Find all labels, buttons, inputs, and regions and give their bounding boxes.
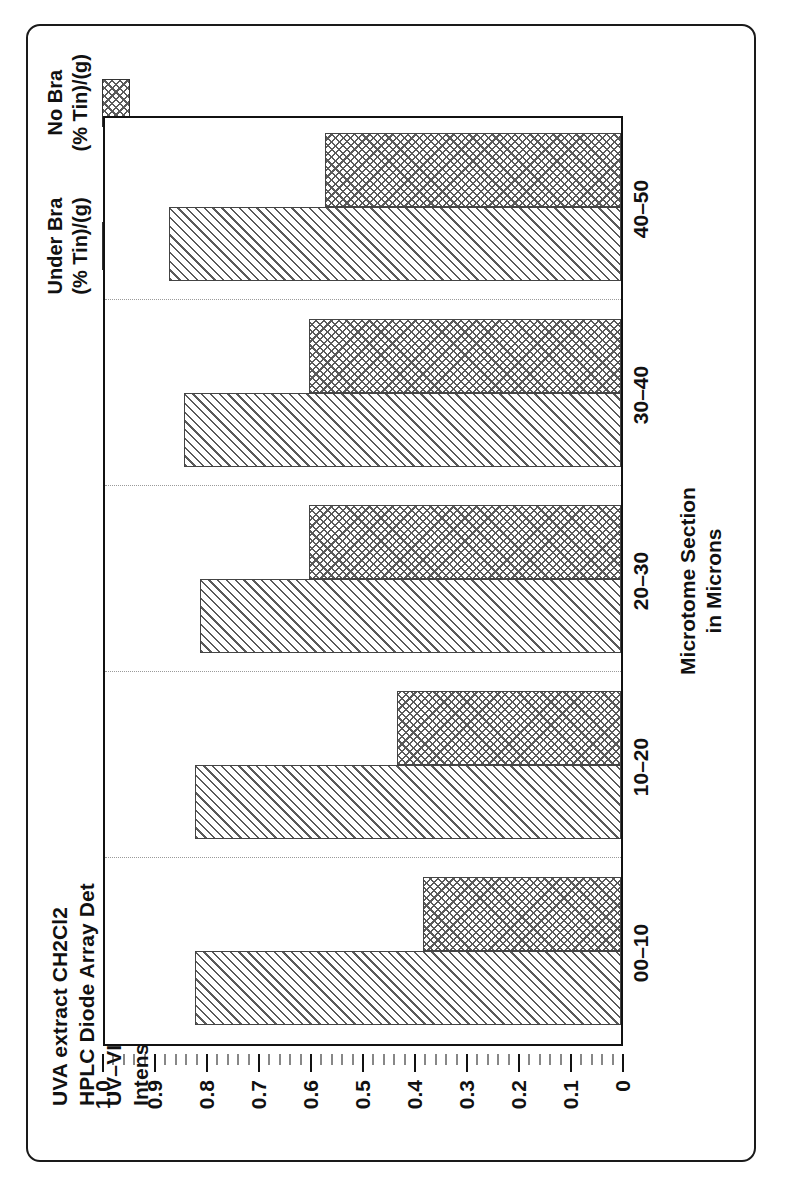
bar-00-10-under-bra [195,951,621,1025]
bar-10-20-no-bra [397,691,621,765]
value-tick-label: 0.9 [143,1080,167,1109]
value-axis: 1.00.90.80.70.60.50.40.30.20.10 [103,1046,623,1138]
value-tick-major [258,1054,260,1072]
value-tick-minor [560,1054,561,1065]
value-tick-major [466,1054,468,1072]
bar-30-40-no-bra [309,319,621,393]
value-tick-minor [508,1054,509,1065]
bar-40-50-under-bra [169,207,621,281]
value-tick-minor [227,1054,228,1065]
value-tick-minor [196,1054,197,1065]
value-tick-minor [591,1054,592,1065]
value-tick-label: 0.4 [403,1080,427,1109]
value-tick-minor [404,1054,405,1065]
value-tick-minor [175,1054,176,1065]
category-tick-label: 30–40 [629,366,653,424]
bar-00-10-no-bra [423,877,621,951]
value-tick-minor [487,1054,488,1065]
value-tick-minor [498,1054,499,1065]
bar-chart-figure: UVA extract CH2Cl2 HPLC Diode Array Det … [41,48,741,1138]
value-tick-label: 0.8 [195,1080,219,1109]
value-tick-minor [342,1054,343,1065]
value-tick-label: 0.1 [559,1080,583,1109]
rotated-figure-host: UVA extract CH2Cl2 HPLC Diode Array Det … [41,48,741,1138]
value-tick-major [518,1054,520,1072]
value-tick-label: 1.0 [91,1080,115,1109]
category-axis: 00–1010–2020–3030–4040–50 [629,116,669,1046]
value-tick-minor [134,1054,135,1065]
plot-area [103,116,623,1046]
value-tick-minor [425,1054,426,1065]
grid-line [105,299,621,300]
value-tick-minor [300,1054,301,1065]
bar-20-30-no-bra [309,505,621,579]
value-tick-minor [269,1054,270,1065]
plot-wrapper [103,116,623,1046]
bar-30-40-under-bra [184,393,621,467]
value-tick-label: 0.7 [247,1080,271,1109]
bar-40-50-no-bra [325,133,621,207]
category-tick-label: 20–30 [629,552,653,610]
value-tick-minor [373,1054,374,1065]
value-tick-minor [352,1054,353,1065]
value-tick-minor [602,1054,603,1065]
value-tick-minor [217,1054,218,1065]
legend-label-under-bra: Under Bra (% Tin)/(g) [43,197,93,294]
value-tick-label: 0.5 [351,1080,375,1109]
category-tick-label: 00–10 [629,924,653,982]
category-tick-label: 10–20 [629,738,653,796]
value-tick-label: 0.3 [455,1080,479,1109]
value-tick-major [154,1054,156,1072]
value-tick-minor [539,1054,540,1065]
value-tick-label: 0.6 [299,1080,323,1109]
value-tick-minor [186,1054,187,1065]
value-tick-minor [248,1054,249,1065]
category-tick-label: 40–50 [629,180,653,238]
value-tick-minor [383,1054,384,1065]
value-tick-major [414,1054,416,1072]
value-tick-minor [435,1054,436,1065]
value-tick-major [362,1054,364,1072]
value-tick-minor [144,1054,145,1065]
value-tick-minor [238,1054,239,1065]
value-tick-minor [456,1054,457,1065]
value-tick-major [570,1054,572,1072]
value-tick-major [102,1054,104,1072]
legend-label-no-bra: No Bra (% Tin)/(g) [43,54,93,151]
bar-10-20-under-bra [195,765,621,839]
bar-20-30-under-bra [200,579,621,653]
grid-line [105,857,621,858]
value-tick-major [206,1054,208,1072]
value-tick-minor [612,1054,613,1065]
value-tick-minor [331,1054,332,1065]
value-tick-minor [529,1054,530,1065]
page-frame: UVA extract CH2Cl2 HPLC Diode Array Det … [26,24,756,1162]
category-axis-title-line-1: Microtome Section [675,116,701,1046]
grid-line [105,671,621,672]
value-tick-minor [321,1054,322,1065]
value-tick-minor [165,1054,166,1065]
value-tick-minor [290,1054,291,1065]
category-axis-title: Microtome Section in Microns [675,116,728,1046]
value-tick-minor [446,1054,447,1065]
chart-title-line-1: UVA extract CH2Cl2 [47,883,74,1106]
value-tick-minor [279,1054,280,1065]
value-tick-label: 0 [611,1080,635,1092]
category-axis-title-line-2: in Microns [701,116,727,1046]
value-tick-label: 0.2 [507,1080,531,1109]
value-tick-minor [581,1054,582,1065]
value-tick-minor [113,1054,114,1065]
value-tick-minor [394,1054,395,1065]
chart-title-line-2: HPLC Diode Array Det [74,883,101,1106]
value-tick-minor [477,1054,478,1065]
grid-line [105,485,621,486]
value-tick-minor [550,1054,551,1065]
value-tick-minor [123,1054,124,1065]
value-tick-major [310,1054,312,1072]
value-tick-major [622,1054,624,1072]
